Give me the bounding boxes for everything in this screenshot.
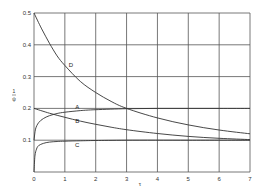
x-tick-label: 4	[156, 176, 160, 182]
y-axis-label: 1 ψ	[12, 88, 16, 102]
x-tick-label: 0	[32, 176, 36, 182]
grid-lines	[34, 13, 250, 172]
x-tick-label: 5	[187, 176, 191, 182]
curve-label-a: A	[75, 104, 79, 110]
x-axis-label: τ	[139, 181, 142, 187]
x-tick-label: 1	[63, 176, 67, 182]
line-chart: 01234567 0.10.20.30.40.5 DABC τ 1 ψ	[0, 0, 262, 190]
curve-d	[34, 13, 250, 134]
y-axis-label-symbol: ψ	[12, 96, 16, 102]
y-tick-label: 0.3	[23, 74, 32, 80]
y-tick-label: 0.4	[23, 42, 32, 48]
x-axis-ticks: 01234567	[32, 176, 252, 182]
x-tick-label: 7	[248, 176, 252, 182]
curve-label-c: C	[75, 142, 80, 148]
curve-label-d: D	[69, 62, 74, 68]
x-tick-label: 3	[125, 176, 129, 182]
curves	[34, 13, 250, 172]
y-tick-label: 0.5	[23, 10, 32, 16]
curve-c	[34, 140, 250, 172]
y-tick-label: 0.2	[23, 105, 32, 111]
svg-text:1: 1	[13, 88, 16, 94]
x-tick-label: 2	[94, 176, 98, 182]
y-axis-ticks: 0.10.20.30.40.5	[23, 10, 32, 143]
x-tick-label: 6	[217, 176, 221, 182]
curve-label-b: B	[75, 118, 79, 124]
y-tick-label: 0.1	[23, 137, 32, 143]
